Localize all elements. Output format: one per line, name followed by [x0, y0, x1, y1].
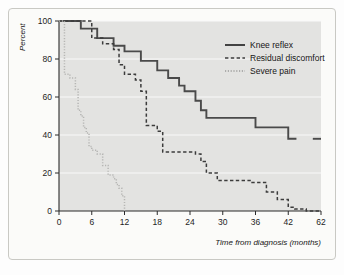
legend-label-knee-reflex: Knee reflex [250, 40, 294, 50]
legend-label-residual-discomfort: Residual discomfort [250, 53, 325, 63]
figure-container: 020406080100 0612182430364262 Percent Ti… [0, 0, 344, 275]
y-tick-label-80: 80 [43, 54, 53, 64]
y-axis-title: Percent [18, 23, 27, 51]
y-tick-label-40: 40 [43, 130, 53, 140]
x-axis-title: Time from diagnosis (months) [215, 238, 321, 247]
x-axis-ticks: 0612182430364262 [57, 211, 326, 227]
x-tick-label-12: 12 [120, 217, 130, 227]
survival-curve-chart: 020406080100 0612182430364262 Percent Ti… [9, 9, 337, 261]
x-tick-label-42: 42 [284, 217, 294, 227]
x-tick-label-6: 6 [89, 217, 94, 227]
x-tick-label-24: 24 [185, 217, 195, 227]
x-tick-label-30: 30 [218, 217, 228, 227]
legend-label-severe-pain: Severe pain [250, 66, 296, 76]
y-tick-label-60: 60 [43, 92, 53, 102]
y-tick-label-100: 100 [38, 16, 52, 26]
x-tick-label-62: 62 [316, 217, 326, 227]
y-tick-label-0: 0 [47, 206, 52, 216]
figure-frame: 020406080100 0612182430364262 Percent Ti… [8, 8, 336, 260]
x-tick-label-0: 0 [57, 217, 62, 227]
y-axis-ticks: 020406080100 [38, 16, 59, 216]
x-tick-label-18: 18 [153, 217, 163, 227]
y-tick-label-20: 20 [43, 168, 53, 178]
x-tick-label-36: 36 [251, 217, 261, 227]
